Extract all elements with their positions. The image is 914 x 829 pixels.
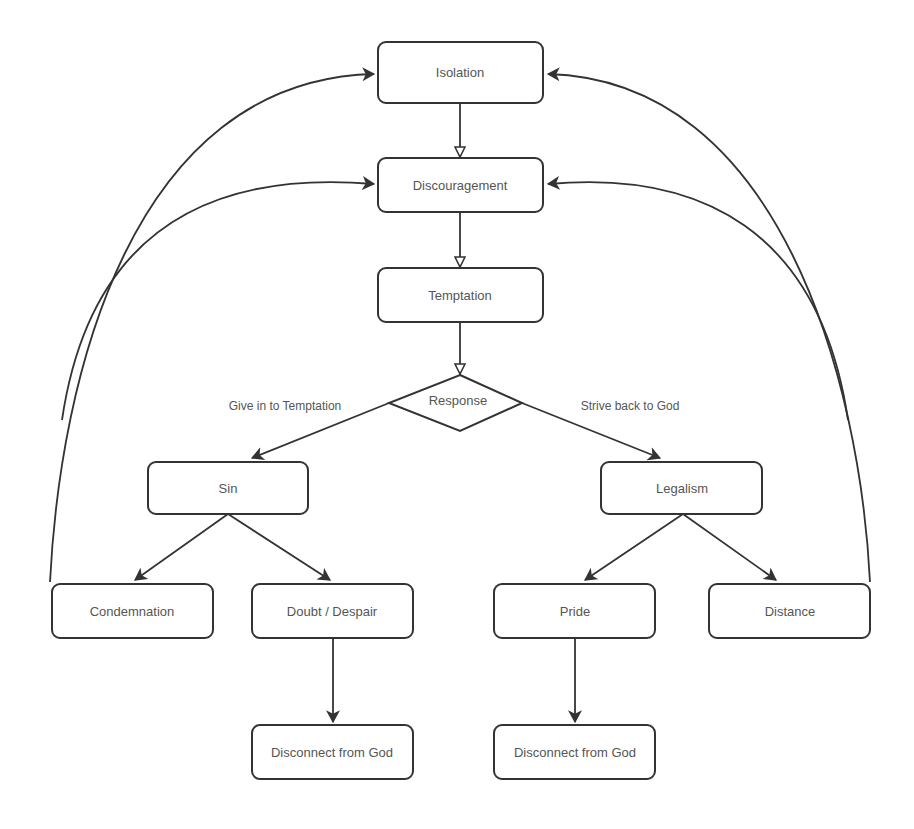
node-response-decision[interactable]: Response [389, 375, 522, 431]
node-pride[interactable]: Pride [494, 584, 655, 638]
flowchart-canvas: Give in to Temptation Strive back to God… [0, 0, 914, 829]
edge-label-give-in: Give in to Temptation [229, 399, 342, 413]
edge-label-strive-back: Strive back to God [581, 399, 680, 413]
node-isolation[interactable]: Isolation [378, 42, 543, 103]
node-distance[interactable]: Distance [709, 584, 870, 638]
edge-condemnation-to-discouragement [62, 182, 374, 420]
node-discouragement[interactable]: Discouragement [378, 158, 543, 212]
node-disconnect-right-label: Disconnect from God [514, 745, 636, 760]
node-response-label: Response [429, 393, 488, 408]
node-isolation-label: Isolation [436, 65, 484, 80]
edge-legalism-to-pride [585, 514, 683, 580]
node-distance-label: Distance [765, 604, 816, 619]
node-temptation[interactable]: Temptation [378, 268, 543, 322]
node-sin-label: Sin [219, 481, 238, 496]
edge-sin-to-condemnation [135, 514, 228, 580]
node-pride-label: Pride [560, 604, 590, 619]
node-legalism-label: Legalism [656, 481, 708, 496]
node-sin[interactable]: Sin [148, 462, 308, 514]
node-doubt-despair[interactable]: Doubt / Despair [252, 584, 413, 638]
node-doubt-despair-label: Doubt / Despair [287, 604, 378, 619]
node-legalism[interactable]: Legalism [601, 462, 762, 514]
node-condemnation-label: Condemnation [90, 604, 175, 619]
edge-legalism-to-distance [683, 514, 776, 580]
edge-sin-to-doubt [228, 514, 330, 580]
node-disconnect-left-label: Disconnect from God [271, 745, 393, 760]
node-condemnation[interactable]: Condemnation [52, 584, 213, 638]
edge-distance-to-discouragement [548, 182, 848, 420]
node-disconnect-right[interactable]: Disconnect from God [494, 725, 655, 779]
node-discouragement-label: Discouragement [413, 178, 508, 193]
node-temptation-label: Temptation [428, 288, 492, 303]
node-disconnect-left[interactable]: Disconnect from God [252, 725, 413, 779]
